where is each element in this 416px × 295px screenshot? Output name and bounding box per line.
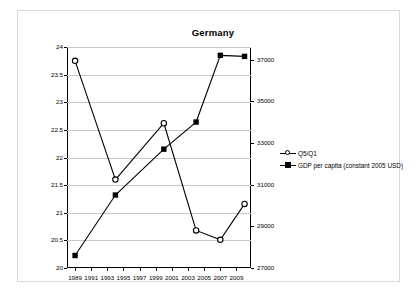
data-point-open-circle[interactable] [113, 177, 118, 182]
data-point-filled-square[interactable] [193, 119, 198, 124]
left-axis-tick-label: 21.5 [37, 181, 63, 188]
data-point-open-circle[interactable] [161, 121, 166, 126]
data-point-filled-square[interactable] [242, 54, 247, 59]
right-axis-tick-label: 29000 [257, 222, 291, 229]
data-point-open-circle[interactable] [242, 201, 247, 206]
left-axis-tick-label: 24 [37, 43, 63, 50]
left-axis-tick-label: 23.5 [37, 71, 63, 78]
right-axis-tick-label: 27000 [257, 264, 291, 271]
left-axis-tick [64, 268, 67, 269]
chart-frame: Germany 2020.52121.52222.52323.524 27000… [17, 10, 400, 282]
data-point-open-circle[interactable] [193, 228, 198, 233]
right-axis-tick [251, 226, 254, 227]
x-axis-tick [156, 268, 157, 271]
x-axis-tick [75, 268, 76, 271]
x-axis-tick [172, 268, 173, 271]
right-axis-tick [251, 143, 254, 144]
left-axis-tick [64, 158, 67, 159]
x-axis-tick [236, 268, 237, 271]
x-axis-tick [123, 268, 124, 271]
series-line [75, 61, 244, 240]
left-axis-tick-label: 21 [37, 209, 63, 216]
right-axis-tick [251, 101, 254, 102]
legend-item[interactable]: GDP per capita (constant 2005 USD) [280, 159, 403, 171]
left-axis-tick [64, 47, 67, 48]
data-point-filled-square[interactable] [72, 253, 77, 258]
data-point-open-circle[interactable] [72, 58, 77, 63]
x-axis-tick [140, 268, 141, 271]
left-axis-tick [64, 240, 67, 241]
x-axis-tick [220, 268, 221, 271]
left-axis-tick-label: 22.5 [37, 126, 63, 133]
legend-item[interactable]: Q5/Q1 [280, 147, 403, 159]
x-axis-tick [107, 268, 108, 271]
plot-area [67, 47, 251, 268]
legend-item-label: GDP per capita (constant 2005 USD) [298, 161, 403, 170]
data-point-filled-square[interactable] [218, 53, 223, 58]
left-axis-tick-label: 23 [37, 98, 63, 105]
left-axis-tick [64, 185, 67, 186]
x-axis-tick-label: 2009 [224, 274, 248, 281]
left-axis-tick [64, 102, 67, 103]
right-axis-tick-label: 31000 [257, 181, 291, 188]
chart-legend: Q5/Q1GDP per capita (constant 2005 USD) [280, 147, 403, 171]
right-axis-tick [251, 185, 254, 186]
left-axis-tick-label: 20 [37, 264, 63, 271]
data-point-filled-square[interactable] [161, 146, 166, 151]
right-axis-tick [251, 60, 254, 61]
right-axis-tick-label: 33000 [257, 139, 291, 146]
data-point-filled-square[interactable] [113, 192, 118, 197]
legend-filled-square-icon [280, 161, 296, 170]
legend-item-label: Q5/Q1 [298, 149, 317, 158]
left-axis-tick-label: 20.5 [37, 236, 63, 243]
x-axis-tick [204, 268, 205, 271]
x-axis-tick [91, 268, 92, 271]
left-axis-tick [64, 130, 67, 131]
right-axis-tick [251, 268, 254, 269]
series-layer [67, 47, 251, 268]
data-point-open-circle[interactable] [218, 237, 223, 242]
x-axis-tick [188, 268, 189, 271]
left-axis-tick [64, 75, 67, 76]
legend-open-circle-icon [280, 149, 296, 158]
right-axis-tick-label: 35000 [257, 97, 291, 104]
left-axis-tick-label: 22 [37, 154, 63, 161]
chart-title: Germany [138, 27, 288, 38]
series-line [75, 55, 244, 255]
right-axis-tick-label: 37000 [257, 56, 291, 63]
left-axis-tick [64, 213, 67, 214]
